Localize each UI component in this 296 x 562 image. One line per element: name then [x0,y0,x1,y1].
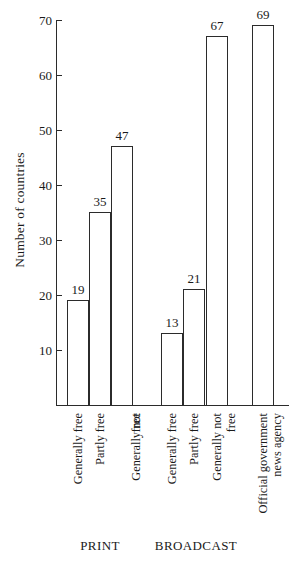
y-tick-label-10: 10 [6,344,52,357]
y-axis-line [56,20,57,406]
bar-value-broadcast-generally-not-free: 67 [199,19,235,32]
bar-print-generally-not-free[interactable] [111,146,133,405]
category-label-broadcast-generally-not-free: Generally not [211,413,225,498]
category-label-official-government-news-agency-line2: news agency [271,413,285,525]
y-tick-label-60: 60 [6,69,52,82]
category-label-print-generally-free: Generally free [72,413,86,498]
category-label-broadcast-generally-not-free-line2: free [225,413,239,498]
y-tick-30 [56,240,62,241]
group-caption-print: PRINT [58,538,142,554]
y-tick-60 [56,75,62,76]
y-tick-40 [56,185,62,186]
y-tick-10 [56,350,62,351]
bar-value-print-generally-not-free: 47 [104,129,140,142]
category-label-broadcast-generally-free: Generally free [166,413,180,498]
bar-broadcast-generally-free[interactable] [161,333,183,405]
bar-chart-figure: Number of countries 70 60 50 40 30 20 10… [0,0,296,562]
bar-broadcast-partly-free[interactable] [183,289,205,405]
bar-value-official-government-news-agency: 69 [245,8,281,21]
y-tick-70 [56,20,62,21]
y-tick-50 [56,130,62,131]
category-label-print-generally-not-free-line2: free [130,413,144,498]
group-caption-broadcast: BROADCAST [140,538,252,554]
y-tick-label-50: 50 [6,124,52,137]
bar-print-partly-free[interactable] [89,212,111,405]
y-axis-title: Number of countries [12,60,30,360]
bar-broadcast-generally-not-free[interactable] [206,36,228,405]
y-tick-label-30: 30 [6,234,52,247]
y-tick-label-20: 20 [6,289,52,302]
category-label-print-partly-free: Partly free [94,413,108,498]
bar-official-government-news-agency[interactable] [252,25,274,405]
bar-print-generally-free[interactable] [67,300,89,405]
category-label-broadcast-partly-free: Partly free [188,413,202,498]
y-tick-label-70: 70 [6,14,52,27]
category-label-official-government-news-agency: Official government [257,413,271,525]
y-tick-label-40: 40 [6,179,52,192]
x-axis-line [56,405,289,406]
